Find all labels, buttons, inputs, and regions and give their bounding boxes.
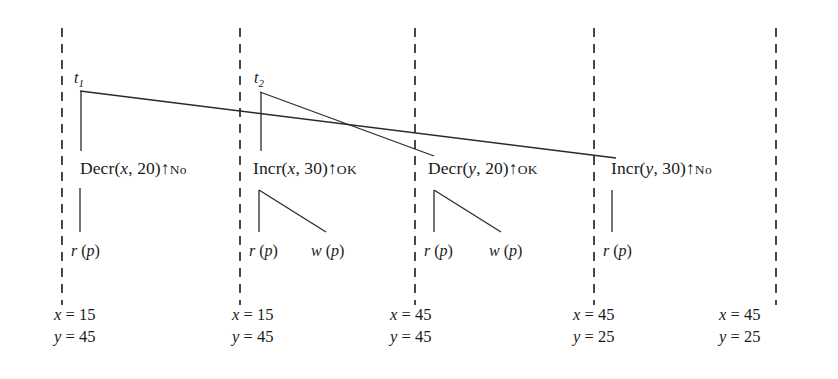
operation-label-incr-x: Incr(x, 30)↑OK <box>253 160 357 178</box>
state-label-4-y: y = 25 <box>573 329 614 346</box>
transaction-label-t1-index: 1 <box>78 77 84 89</box>
state-label-2-x: x = 15 <box>232 307 273 324</box>
suboperation-read-3-text: r (p) <box>424 242 453 259</box>
operation-label-incr-y-text: Incr(y, 30)↑No <box>611 158 712 178</box>
state-label-1-x: x = 15 <box>54 307 95 324</box>
transaction-timeline-diagram: t1 t2 Decr(x, 20)↑No Incr(x, 30)↑OK Decr… <box>0 0 838 379</box>
state-label-5-y: y = 25 <box>719 329 760 346</box>
state-label-4: x = 45 y = 25 <box>573 307 614 345</box>
state-label-5-x: x = 45 <box>719 307 760 324</box>
suboperation-read-1-text: r (p) <box>71 242 100 259</box>
state-label-2: x = 15 y = 45 <box>232 307 273 345</box>
suboperation-label-read-3: r (p) <box>424 243 453 259</box>
state-label-3-x: x = 45 <box>390 307 431 324</box>
operation-label-decr-y: Decr(y, 20)↑OK <box>428 160 538 178</box>
suboperation-write-1-text: w (p) <box>311 242 344 259</box>
operation-label-incr-x-text: Incr(x, 30)↑OK <box>253 158 357 178</box>
suboperation-label-read-4: r (p) <box>603 243 632 259</box>
operation-label-decr-x: Decr(x, 20)↑No <box>80 160 187 178</box>
suboperation-label-write-1: w (p) <box>311 243 344 259</box>
suboperation-label-read-1: r (p) <box>71 243 100 259</box>
operation-label-decr-y-text: Decr(y, 20)↑OK <box>428 158 538 178</box>
suboperation-read-2-text: r (p) <box>249 242 278 259</box>
suboperation-write-2-text: w (p) <box>489 242 522 259</box>
transaction-t2-span <box>260 92 434 156</box>
state-label-1-y: y = 45 <box>54 329 95 346</box>
state-label-5: x = 45 y = 25 <box>719 307 760 345</box>
t2-span-line <box>260 92 434 156</box>
state-label-4-x: x = 45 <box>573 307 614 324</box>
suboperation-label-read-2: r (p) <box>249 243 278 259</box>
transaction-label-t2: t2 <box>254 70 264 89</box>
operation-label-decr-x-text: Decr(x, 20)↑No <box>80 158 187 178</box>
operation-label-incr-y: Incr(y, 30)↑No <box>611 160 712 178</box>
connector-op2-write <box>259 190 326 232</box>
transaction-label-t1: t1 <box>74 70 84 89</box>
state-label-3-y: y = 45 <box>390 329 431 346</box>
operation-connectors <box>80 188 612 232</box>
state-label-1: x = 15 y = 45 <box>54 307 95 345</box>
suboperation-label-write-2: w (p) <box>489 243 522 259</box>
state-label-2-y: y = 45 <box>232 329 273 346</box>
state-label-3: x = 45 y = 45 <box>390 307 431 345</box>
connector-op3-write <box>434 190 501 232</box>
transaction-label-t2-index: 2 <box>258 77 264 89</box>
suboperation-read-4-text: r (p) <box>603 242 632 259</box>
